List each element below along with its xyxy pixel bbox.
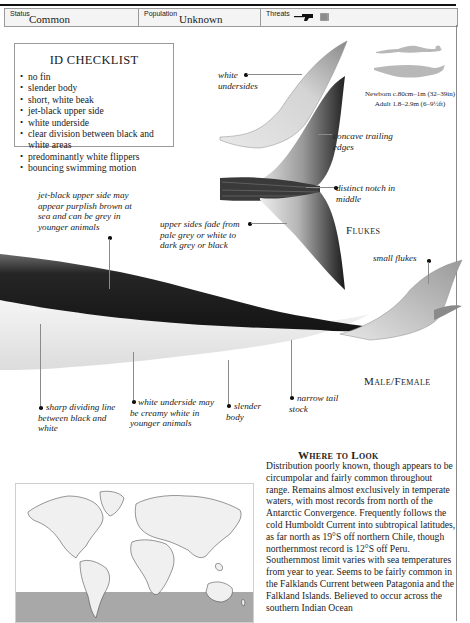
ann-leader — [109, 239, 110, 289]
checklist-item: clear division between black and white a… — [20, 128, 169, 151]
human-silhouette-icon — [376, 46, 442, 54]
checklist-item: short, white beak — [20, 94, 169, 105]
checklist-item: predominantly white flippers — [20, 151, 169, 162]
checklist-item: bouncing swimming motion — [20, 162, 169, 173]
threats-label: Threats — [266, 10, 290, 17]
status-bar: Status Common Population Unknown Threats — [4, 8, 458, 27]
checklist-item: slender body — [20, 82, 169, 93]
top-rule — [0, 4, 456, 6]
male-female-label: Male/Female — [364, 375, 430, 387]
id-checklist-title: ID CHECKLIST — [15, 44, 173, 71]
ann-leader — [306, 187, 334, 188]
checklist-item: jet-black upper side — [20, 105, 169, 116]
size-newborn: Newborn c.80cm–1m (32–39in) — [360, 89, 460, 99]
ann-leader — [133, 352, 134, 400]
ann-dot — [334, 186, 338, 190]
ann-slender-body: slender body — [226, 401, 266, 422]
ann-leader — [291, 340, 292, 396]
ann-distinct-notch: distinct notch in middle — [336, 183, 396, 204]
population-label: Population — [144, 10, 177, 17]
population-value: Unknown — [179, 13, 222, 25]
where-to-look-body: Distribution poorly known, though appear… — [266, 460, 456, 613]
status-value: Common — [29, 13, 70, 25]
harpoon-gun-icon — [294, 14, 313, 21]
id-checklist-list: no fin slender body short, white beak je… — [15, 71, 173, 174]
whale-silhouette-icon — [374, 65, 445, 78]
fishing-net-icon — [320, 13, 329, 21]
ann-leader — [40, 324, 41, 406]
size-adult: Adult 1.8–2.9m (6–9½ft) — [360, 99, 460, 109]
status-cell: Status Common — [5, 9, 139, 26]
world-map-icon — [16, 484, 253, 622]
ann-small-flukes: small flukes — [373, 253, 417, 264]
ann-narrow-tail-stock: narrow tail stock — [289, 393, 339, 414]
checklist-item: white underside — [20, 117, 169, 128]
ann-leader — [228, 360, 229, 404]
flukes-label: Flukes — [346, 224, 380, 236]
id-checklist-box: ID CHECKLIST no fin slender body short, … — [14, 43, 174, 147]
ann-jet-black-upper: jet-black upper side may appear purplish… — [38, 190, 136, 232]
ann-concave-trailing-edges: concave trailing edges — [333, 131, 393, 152]
ann-leader — [318, 134, 332, 135]
status-label: Status — [10, 10, 30, 17]
threats-cell: Threats — [261, 9, 457, 26]
ann-sharp-dividing-line: sharp dividing line between black and wh… — [38, 402, 116, 434]
checklist-item: no fin — [20, 71, 169, 82]
ann-leader — [247, 74, 302, 75]
range-map — [15, 483, 254, 623]
ann-leader — [251, 223, 287, 224]
ann-white-underside: white underside may be creamy white in y… — [130, 397, 218, 429]
ann-leader — [428, 262, 429, 284]
population-cell: Population Unknown — [139, 9, 261, 26]
